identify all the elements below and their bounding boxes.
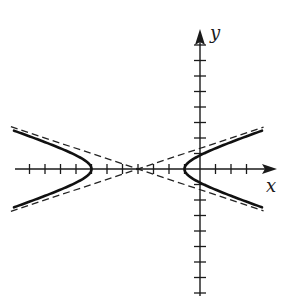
x-axis-label: x [266, 175, 276, 196]
y-axis-label: y [209, 22, 221, 43]
coordinate-plane: x y [0, 0, 297, 303]
hyperbola-figure: x y [0, 0, 297, 303]
axes [15, 29, 277, 296]
